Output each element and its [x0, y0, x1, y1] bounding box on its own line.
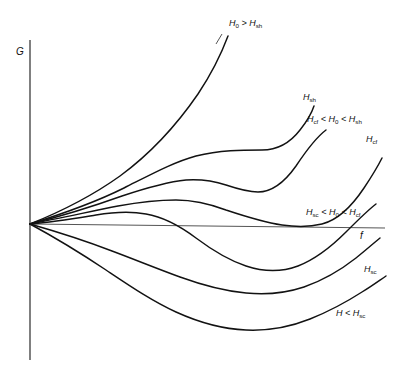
- free-energy-diagram: GIBBS FREE ENERGY CURVES G f H0 > Hsh Hs…: [0, 0, 404, 374]
- curve-hsh: [30, 106, 314, 224]
- label-curve-hcf: Hcf: [366, 134, 378, 145]
- label-curve-hsh: Hsh: [303, 92, 317, 103]
- label-curve-hcf-lt-h0-lt-hsh: Hcf < H0 < Hsh: [307, 114, 362, 125]
- curve-hcf-lt-h0-lt-hsh: [30, 130, 326, 224]
- x-axis-label: f: [360, 230, 364, 241]
- label-curve-hsc-lt-h0-lt-hcf: Hsc < H0 < Hcf: [306, 207, 361, 218]
- curve-h0-gt-hsh: [30, 36, 228, 224]
- curve-hsc: [30, 224, 380, 294]
- leader-curve-1: [216, 34, 222, 44]
- label-curve-hsc: Hsc: [364, 264, 377, 275]
- y-axis-label: G: [16, 46, 24, 57]
- x-axis: [30, 224, 385, 228]
- diagram-canvas: G f H0 > Hsh Hsh Hcf < H0 < Hsh Hcf Hsc …: [0, 0, 404, 374]
- cropped-header-text: GIBBS FREE ENERGY CURVES: [100, 0, 310, 3]
- label-curve-h-lt-hsc: H < Hsc: [336, 308, 365, 319]
- label-curve-h0-gt-hsh: H0 > Hsh: [229, 18, 263, 29]
